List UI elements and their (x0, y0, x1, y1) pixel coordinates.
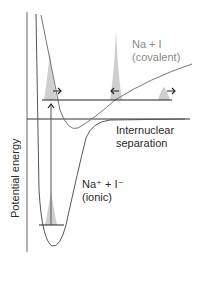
ionic-label-species: Na⁺ + I⁻ (82, 178, 124, 191)
ionic-label: Na⁺ + I⁻ (ionic) (82, 178, 124, 204)
arrow-right-icon (167, 88, 175, 94)
covalent-label-type: (covalent) (132, 51, 180, 64)
ionic-label-type: (ionic) (82, 191, 124, 204)
covalent-label-species: Na + I (132, 38, 180, 51)
x-axis-label-line1: Internuclear (116, 124, 174, 137)
x-axis-label: Internuclear separation (116, 124, 174, 150)
wavepacket-right (158, 87, 170, 100)
x-axis-label-line2: separation (116, 137, 174, 150)
covalent-label: Na + I (covalent) (132, 38, 180, 64)
wavepacket-left (44, 52, 57, 100)
y-axis-label: Potential energy (9, 139, 21, 219)
